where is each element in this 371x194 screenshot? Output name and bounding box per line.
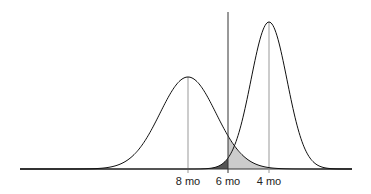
tick-label-4mo: 4 mo [257,175,281,187]
shaded-region-dark [168,158,228,169]
tick-label-8mo: 8 mo [176,175,200,187]
distribution-plot [0,0,371,194]
shaded-region-light [228,136,312,169]
tick-label-6mo: 6 mo [216,175,240,187]
curve-right [20,22,352,169]
curve-left [20,77,352,169]
